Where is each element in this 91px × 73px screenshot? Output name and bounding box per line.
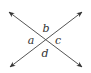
angle-label-a: a	[28, 34, 35, 47]
angle-label-c: c	[55, 34, 61, 47]
angle-label-d: d	[41, 47, 48, 60]
angle-label-b: b	[42, 22, 49, 35]
intersecting-lines-diagram: a b c d	[0, 0, 91, 73]
